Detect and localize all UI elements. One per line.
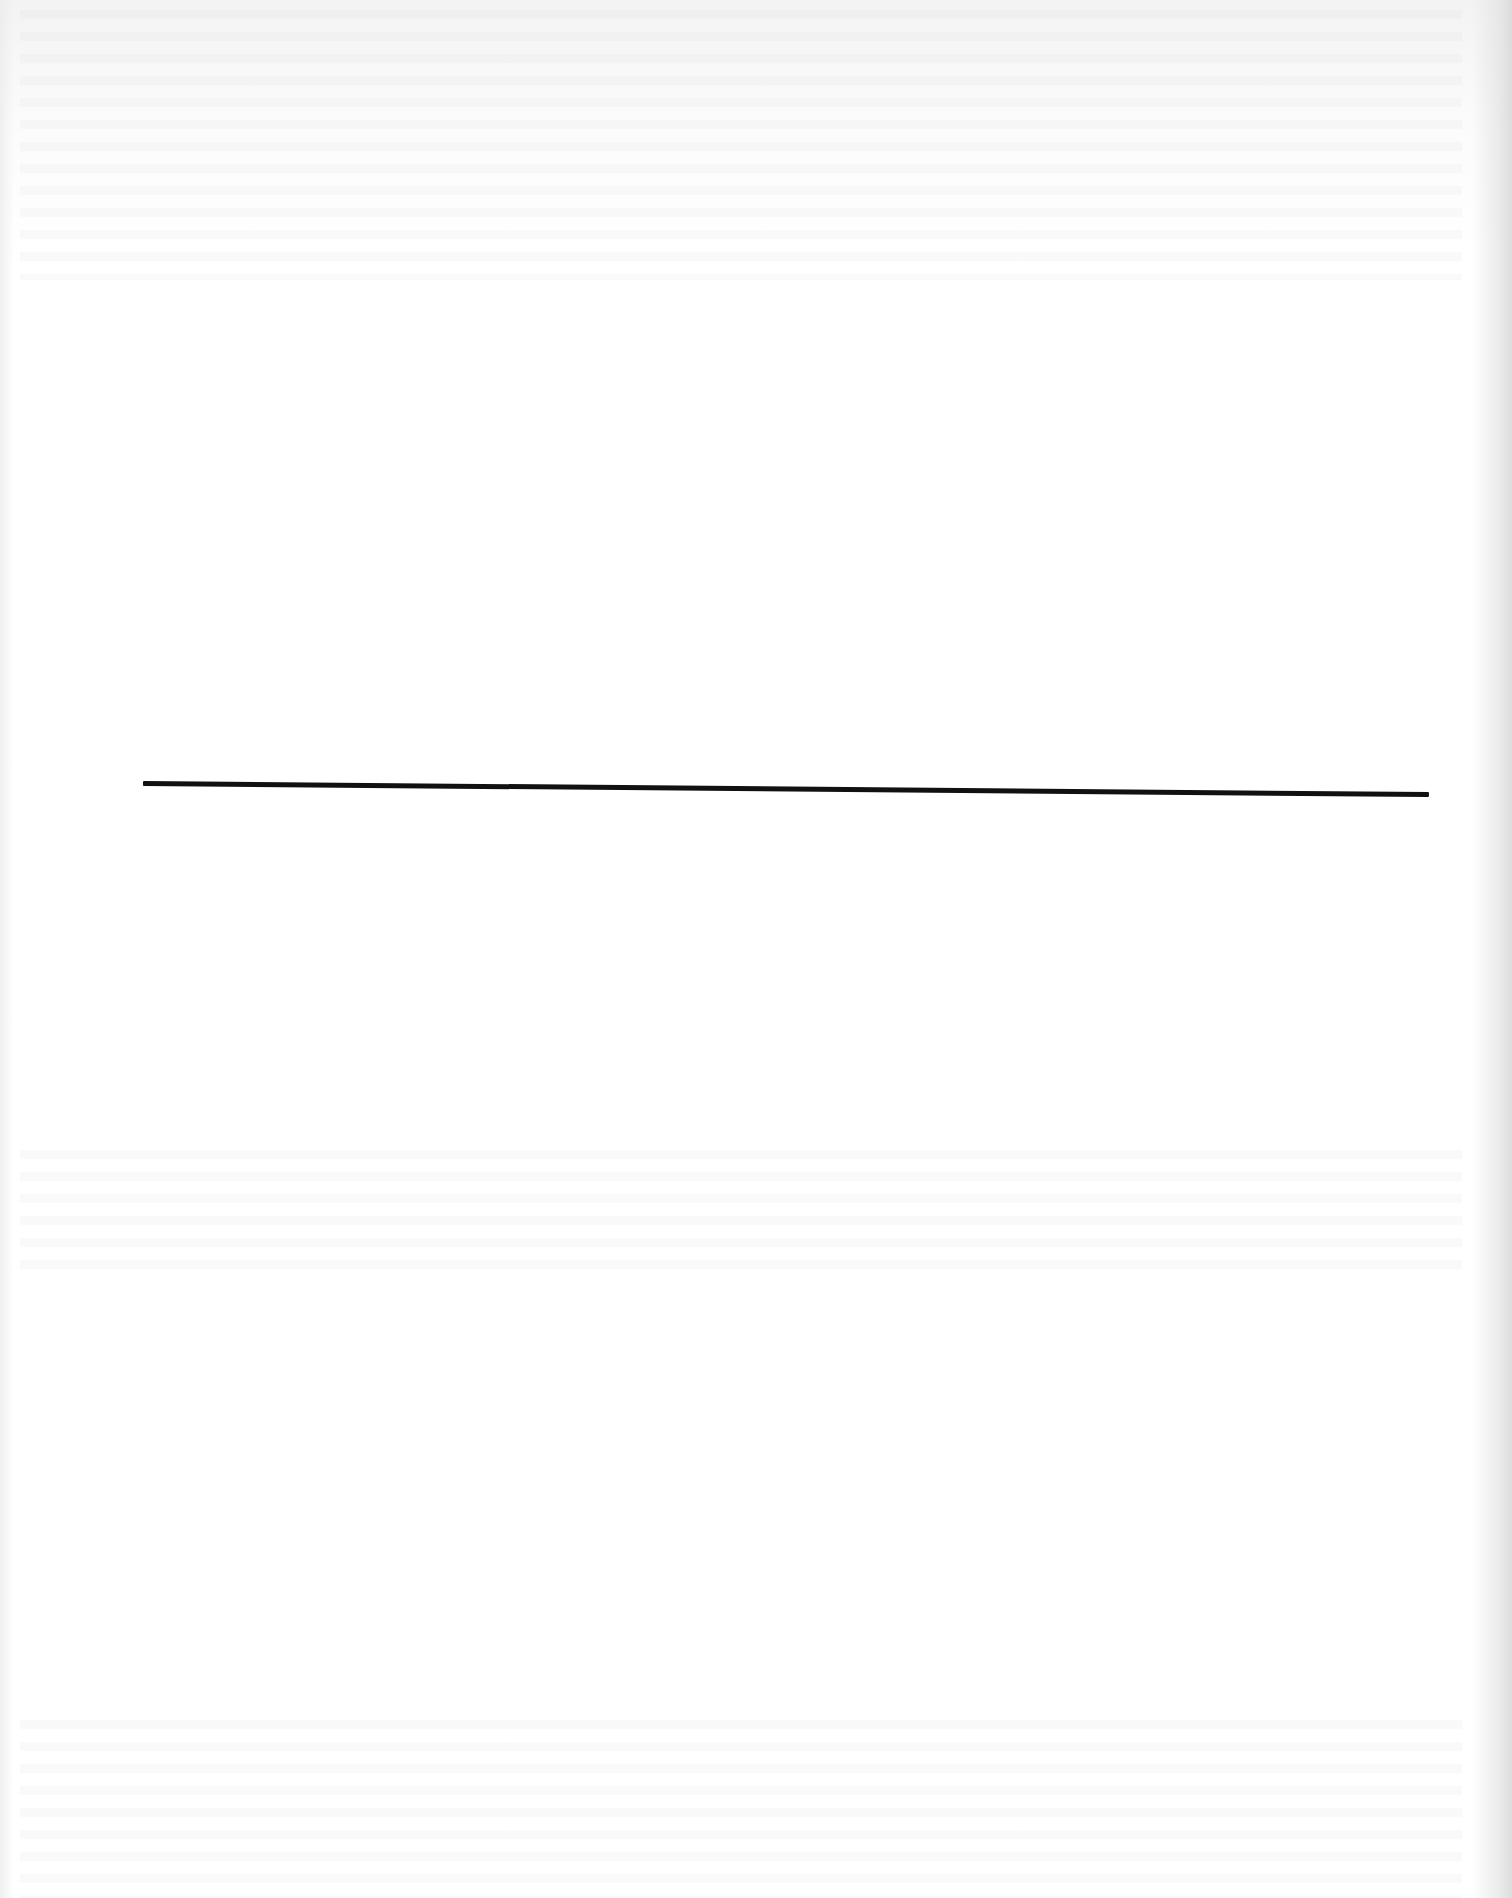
horizontal-rule [143,781,1429,797]
bleed-through-text-top [20,10,1462,280]
scanned-page [0,0,1512,1898]
page-edge-shadow-right [1472,0,1512,1898]
bleed-through-text-bottom [20,1720,1462,1898]
page-edge-shadow-left [0,0,14,1898]
bleed-through-text-middle [20,1150,1462,1280]
